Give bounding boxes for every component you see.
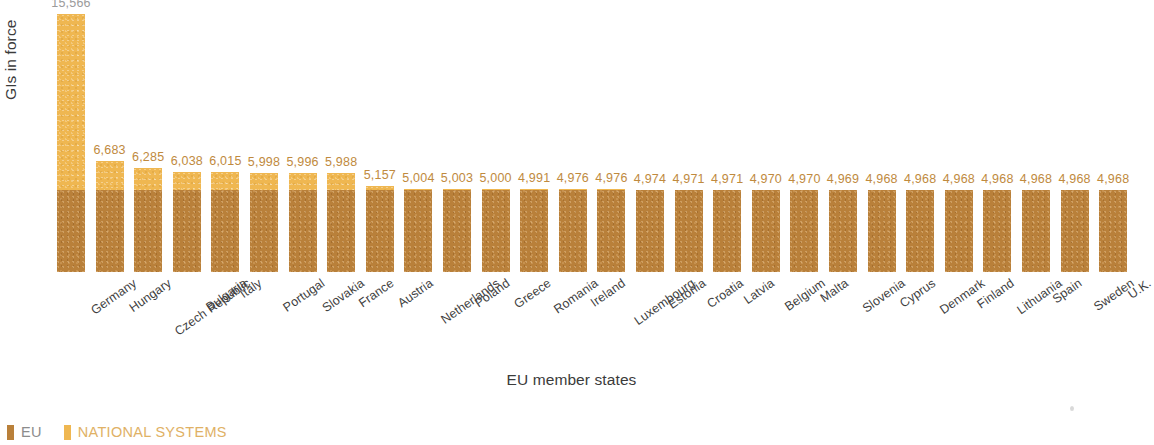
- scan-artifact-speck: [1070, 406, 1074, 411]
- bar-stack[interactable]: [289, 173, 317, 272]
- bar-segment-eu[interactable]: [366, 190, 394, 272]
- bar-column[interactable]: [443, 0, 471, 272]
- bar-segment-eu[interactable]: [404, 190, 432, 272]
- bar-stack[interactable]: [211, 172, 239, 272]
- bar-stack[interactable]: [366, 186, 394, 272]
- bar-column[interactable]: [134, 0, 162, 272]
- bar-stack[interactable]: [752, 190, 780, 272]
- bar-segment-eu[interactable]: [134, 190, 162, 272]
- plot-area: 15,566Germany6,683Hungary6,285Czech Repu…: [45, 0, 1143, 272]
- bar-column[interactable]: [57, 0, 85, 272]
- bar-column[interactable]: [211, 0, 239, 272]
- bar-stack[interactable]: [906, 190, 934, 272]
- bar-segment-eu[interactable]: [1022, 190, 1050, 272]
- bar-column[interactable]: [752, 0, 780, 272]
- bar-column[interactable]: [1022, 0, 1050, 272]
- bar-stack[interactable]: [1099, 190, 1127, 272]
- bar-stack[interactable]: [983, 190, 1011, 272]
- bar-segment-eu[interactable]: [57, 190, 85, 272]
- bar-segment-national-systems[interactable]: [134, 168, 162, 190]
- bar-segment-eu[interactable]: [327, 190, 355, 272]
- bar-column[interactable]: [906, 0, 934, 272]
- bar-column[interactable]: [636, 0, 664, 272]
- bar-column[interactable]: [327, 0, 355, 272]
- legend-label: NATIONAL SYSTEMS: [78, 424, 227, 440]
- bar-column[interactable]: [1061, 0, 1089, 272]
- bar-segment-eu[interactable]: [211, 190, 239, 272]
- bar-stack[interactable]: [250, 173, 278, 272]
- bar-column[interactable]: [366, 0, 394, 272]
- bar-segment-national-systems[interactable]: [289, 173, 317, 190]
- bar-column[interactable]: [868, 0, 896, 272]
- bar-stack[interactable]: [443, 189, 471, 272]
- bar-segment-eu[interactable]: [289, 190, 317, 272]
- bar-segment-eu[interactable]: [868, 190, 896, 272]
- bar-segment-eu[interactable]: [1099, 190, 1127, 272]
- bar-stack[interactable]: [675, 190, 703, 272]
- bar-segment-eu[interactable]: [1061, 190, 1089, 272]
- bar-stack[interactable]: [96, 161, 124, 272]
- legend-item[interactable]: EU: [7, 424, 42, 440]
- bar-segment-eu[interactable]: [250, 190, 278, 272]
- bar-stack[interactable]: [868, 190, 896, 272]
- bar-column[interactable]: [289, 0, 317, 272]
- bar-segment-eu[interactable]: [173, 190, 201, 272]
- bar-segment-eu[interactable]: [96, 190, 124, 272]
- bar-segment-national-systems[interactable]: [173, 172, 201, 190]
- bar-segment-national-systems[interactable]: [211, 172, 239, 189]
- bar-segment-eu[interactable]: [675, 190, 703, 272]
- bar-segment-eu[interactable]: [983, 190, 1011, 272]
- bar-stack[interactable]: [1022, 190, 1050, 272]
- bar-segment-eu[interactable]: [482, 190, 510, 272]
- bar-stack[interactable]: [520, 189, 548, 272]
- bar-stack[interactable]: [636, 190, 664, 272]
- bar-column[interactable]: [675, 0, 703, 272]
- bar-segment-eu[interactable]: [636, 190, 664, 272]
- bar-column[interactable]: [404, 0, 432, 272]
- x-axis-tick-label: Greece: [511, 276, 553, 311]
- bar-stack[interactable]: [134, 168, 162, 272]
- bar-segment-eu[interactable]: [906, 190, 934, 272]
- bar-column[interactable]: [250, 0, 278, 272]
- bar-column[interactable]: [482, 0, 510, 272]
- bar-segment-eu[interactable]: [597, 190, 625, 272]
- x-axis-tick-label: Latvia: [741, 276, 777, 307]
- bar-stack[interactable]: [790, 190, 818, 272]
- bar-column[interactable]: [713, 0, 741, 272]
- bar-stack[interactable]: [713, 190, 741, 272]
- bar-stack[interactable]: [829, 190, 857, 272]
- bar-stack[interactable]: [173, 172, 201, 272]
- bar-segment-eu[interactable]: [829, 190, 857, 272]
- bar-segment-eu[interactable]: [752, 190, 780, 272]
- bar-column[interactable]: [945, 0, 973, 272]
- bar-column[interactable]: [790, 0, 818, 272]
- bar-segment-eu[interactable]: [945, 190, 973, 272]
- bar-column[interactable]: [173, 0, 201, 272]
- bar-value-label: 4,968: [1078, 172, 1148, 186]
- bar-stack[interactable]: [597, 189, 625, 272]
- bar-segment-national-systems[interactable]: [96, 161, 124, 189]
- bar-segment-eu[interactable]: [559, 190, 587, 272]
- legend-item[interactable]: NATIONAL SYSTEMS: [64, 424, 227, 440]
- bar-column[interactable]: [829, 0, 857, 272]
- bar-column[interactable]: [96, 0, 124, 272]
- bar-stack[interactable]: [327, 173, 355, 272]
- bar-stack[interactable]: [404, 189, 432, 272]
- bar-segment-eu[interactable]: [520, 190, 548, 272]
- bar-column[interactable]: [983, 0, 1011, 272]
- bar-stack[interactable]: [559, 189, 587, 272]
- bar-stack[interactable]: [482, 189, 510, 272]
- bar-segment-national-systems[interactable]: [250, 173, 278, 190]
- bar-column[interactable]: [559, 0, 587, 272]
- bar-column[interactable]: [597, 0, 625, 272]
- bar-segment-eu[interactable]: [443, 190, 471, 272]
- bar-column[interactable]: [1099, 0, 1127, 272]
- bar-stack[interactable]: [1061, 190, 1089, 272]
- x-axis-tick-label: Austria: [395, 276, 435, 310]
- bar-column[interactable]: [520, 0, 548, 272]
- y-axis-title: GIs in force: [2, 0, 32, 100]
- bar-stack[interactable]: [945, 190, 973, 272]
- bar-segment-eu[interactable]: [790, 190, 818, 272]
- bar-segment-national-systems[interactable]: [57, 14, 85, 190]
- bar-segment-eu[interactable]: [713, 190, 741, 272]
